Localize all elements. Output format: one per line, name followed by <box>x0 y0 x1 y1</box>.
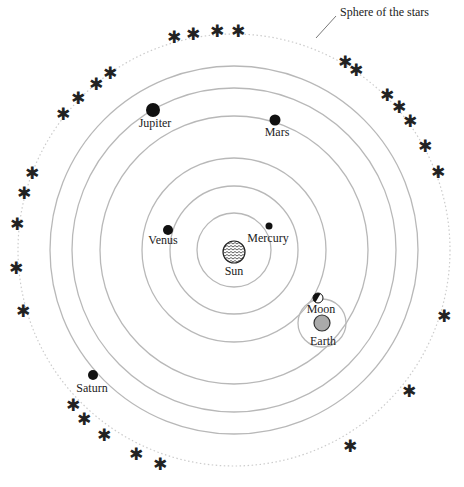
star-icon: ✱ <box>167 27 181 47</box>
planet-label-venus: Venus <box>148 233 178 247</box>
earth-label: Earth <box>310 334 336 348</box>
sun: Sun <box>221 240 249 279</box>
heliocentric-diagram: ✱✱✱✱✱✱✱✱✱✱✱✱✱✱✱✱✱✱✱✱✱✱✱✱✱✱✱✱ MercuryVenu… <box>0 0 464 487</box>
star-icon: ✱ <box>10 214 24 234</box>
sphere-of-stars-callout: Sphere of the stars <box>316 5 429 38</box>
star-icon: ✱ <box>402 381 416 401</box>
planet-label-jupiter: Jupiter <box>139 116 172 130</box>
star-icon: ✱ <box>56 104 70 124</box>
star-icon: ✱ <box>129 444 143 464</box>
callout-line <box>316 16 336 38</box>
star-icon: ✱ <box>77 409 91 429</box>
planet-jupiter <box>146 103 160 117</box>
star-icon: ✱ <box>186 24 200 44</box>
sphere-of-stars-label: Sphere of the stars <box>340 5 429 19</box>
star-icon: ✱ <box>97 425 111 445</box>
star-icon: ✱ <box>16 301 30 321</box>
star-icon: ✱ <box>9 258 23 278</box>
moon-label: Moon <box>307 302 336 316</box>
star-icon: ✱ <box>89 74 103 94</box>
star-icon: ✱ <box>210 21 224 41</box>
planet-mars <box>270 115 281 126</box>
planet-label-saturn: Saturn <box>76 381 107 395</box>
star-icon: ✱ <box>103 63 117 83</box>
star-icon: ✱ <box>418 136 432 156</box>
star-icon: ✱ <box>343 436 357 456</box>
star-icon: ✱ <box>17 183 31 203</box>
star-icon: ✱ <box>403 111 417 131</box>
planet-mercury <box>266 223 273 230</box>
star-icon: ✱ <box>231 21 245 41</box>
star-icon: ✱ <box>437 306 451 326</box>
planet-saturn <box>88 370 98 380</box>
star-icon: ✱ <box>431 162 445 182</box>
planet-label-mercury: Mercury <box>247 231 288 245</box>
star-icon: ✱ <box>25 163 39 183</box>
star-icon: ✱ <box>71 88 85 108</box>
star-icon: ✱ <box>153 454 167 474</box>
star-icon: ✱ <box>349 60 363 80</box>
earth-system: EarthMoon <box>298 291 346 348</box>
planet-label-mars: Mars <box>265 125 290 139</box>
earth-icon <box>314 315 330 331</box>
sun-label: Sun <box>225 264 244 278</box>
